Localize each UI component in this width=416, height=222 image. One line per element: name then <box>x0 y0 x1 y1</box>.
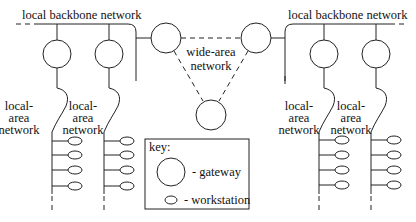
lan-2: local- area network <box>63 88 134 210</box>
workstation-icon <box>387 136 401 144</box>
workstation-icon <box>68 137 82 145</box>
left-backbone-label: local backbone network <box>22 8 142 22</box>
workstation-icon <box>335 136 349 144</box>
legend-box: key: - gateway - workstation <box>145 139 251 209</box>
gateway-icon <box>151 23 181 53</box>
workstation-icon <box>165 196 177 204</box>
workstations <box>319 136 349 189</box>
workstation-icon <box>68 166 82 174</box>
gateway-icon <box>362 40 390 68</box>
wan-label: network <box>191 59 233 73</box>
workstation-icon <box>335 151 349 159</box>
workstations <box>52 137 82 190</box>
legend-workstation-label: - workstation <box>184 193 251 207</box>
gateway-icon <box>157 158 185 186</box>
legend-gateway-label: - gateway <box>192 165 242 179</box>
gateway-icon <box>95 40 123 68</box>
network-diagram: local backbone network local- area netwo… <box>0 0 416 222</box>
workstation-icon <box>335 166 349 174</box>
gateway-icon <box>241 23 271 53</box>
lan-4: local- area network <box>331 88 401 210</box>
left-backbone: local backbone network <box>16 8 151 84</box>
workstation-icon <box>387 181 401 189</box>
svg-text:network: network <box>63 123 105 137</box>
gateway-icon <box>196 100 226 130</box>
workstation-icon <box>68 151 82 159</box>
wide-area-network: wide-area network <box>151 23 271 130</box>
wan-label: wide-area <box>186 45 236 59</box>
workstation-icon <box>387 166 401 174</box>
workstation-icon <box>335 181 349 189</box>
gateway-icon <box>310 40 338 68</box>
workstations <box>104 137 134 190</box>
right-gateways <box>310 24 390 88</box>
workstation-icon <box>68 182 82 190</box>
workstation-icon <box>120 151 134 159</box>
left-gateways <box>43 24 123 88</box>
workstation-icon <box>387 151 401 159</box>
gateway-icon <box>43 40 71 68</box>
workstation-icon <box>120 182 134 190</box>
svg-text:network: network <box>279 123 321 137</box>
workstation-icon <box>120 137 134 145</box>
right-backbone-label: local backbone network <box>288 8 408 22</box>
workstations <box>371 136 401 189</box>
legend-title: key: <box>149 140 171 154</box>
svg-text:network: network <box>0 123 40 137</box>
workstation-icon <box>120 166 134 174</box>
svg-text:network: network <box>331 123 373 137</box>
